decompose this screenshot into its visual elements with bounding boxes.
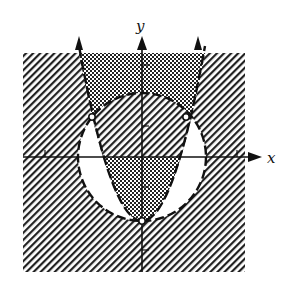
parabola-left-arrow-icon [75,36,83,50]
parabola-right-arrow-icon [194,36,202,50]
x-axis-label: x [267,149,276,167]
open-point-left [89,114,95,120]
graph-canvas: x y [0,0,286,285]
open-point-vertex [139,218,145,224]
y-axis-arrow-icon [137,36,147,50]
x-axis-arrow-icon [248,152,262,162]
y-axis-label: y [135,17,145,35]
inequality-graph-figure: x y [0,0,286,285]
open-point-right [183,114,189,120]
